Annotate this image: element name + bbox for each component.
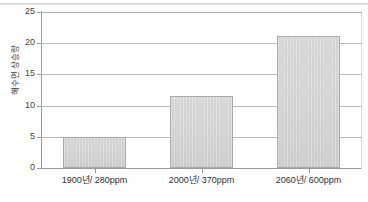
x-tick-label: 2060년/ 600ppm xyxy=(255,176,362,186)
bar xyxy=(63,137,126,168)
y-tick-label: 5 xyxy=(5,132,35,141)
plot-area xyxy=(41,12,362,168)
gridline xyxy=(41,12,362,13)
y-tick-label: 10 xyxy=(5,101,35,110)
x-tick-mark xyxy=(309,168,310,173)
x-tick-label: 1900년/ 280ppm xyxy=(41,176,148,186)
bar-chart: 해수면 상승량 0510152025 1900년/ 280ppm2000년/ 3… xyxy=(0,0,368,202)
x-tick-mark xyxy=(202,168,203,173)
y-tick-label: 15 xyxy=(5,69,35,78)
top-border-rule-secondary xyxy=(0,4,368,5)
y-tick-label: 20 xyxy=(5,38,35,47)
bar xyxy=(170,96,233,168)
bar xyxy=(277,36,340,168)
x-tick-label: 2000년/ 370ppm xyxy=(148,176,255,186)
y-tick-mark xyxy=(37,168,42,169)
x-tick-mark xyxy=(95,168,96,173)
y-tick-label: 0 xyxy=(5,163,35,172)
y-tick-label: 25 xyxy=(5,7,35,16)
